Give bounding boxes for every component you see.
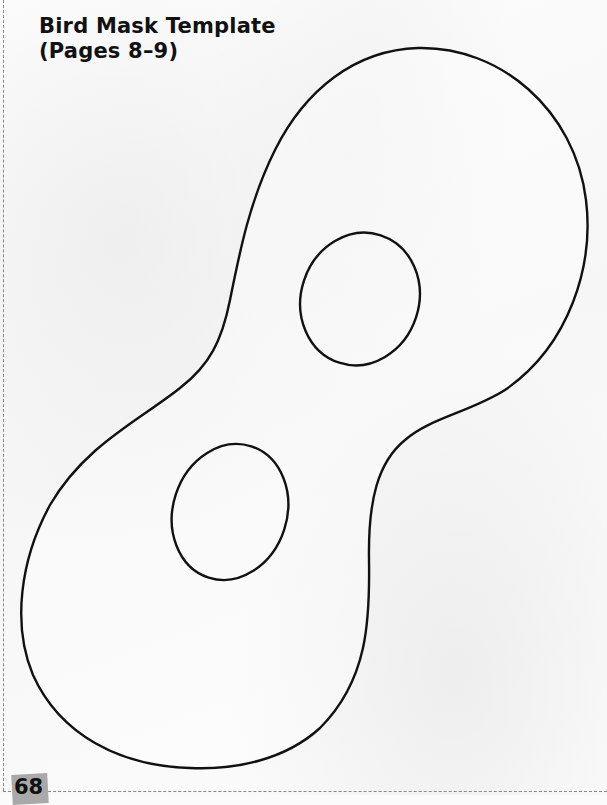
page-number: 68 xyxy=(14,776,43,798)
mask-outline xyxy=(21,48,587,768)
title-line-1: Bird Mask Template xyxy=(39,14,276,39)
page-title: Bird Mask Template (Pages 8–9) xyxy=(39,14,276,64)
title-line-2: (Pages 8–9) xyxy=(39,39,276,64)
